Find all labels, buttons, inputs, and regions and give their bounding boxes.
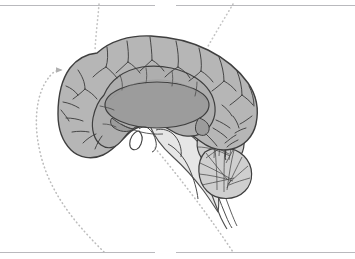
brain-diagram-figure (0, 0, 355, 259)
rule-bottom-left (0, 252, 155, 253)
brain-anatomy-group (58, 36, 257, 229)
leader-top-right-dotted-line (207, 4, 233, 48)
brain-illustration (0, 0, 355, 259)
rule-bottom-right (176, 252, 355, 253)
rule-top-right (176, 5, 355, 6)
leader-left-arrow-segment (50, 70, 61, 76)
pituitary-gland (130, 131, 142, 150)
rule-top-left (0, 5, 155, 6)
leader-top-left-dotted-line (95, 4, 99, 50)
